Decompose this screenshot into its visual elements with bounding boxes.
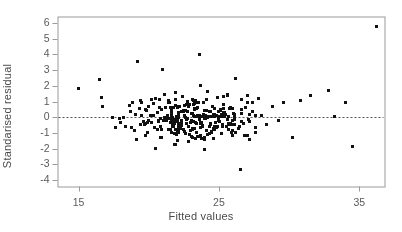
- y-tick-label: -2: [18, 142, 50, 154]
- y-axis-title: Standarised residual: [0, 0, 14, 232]
- y-tick-label: -3: [18, 157, 50, 169]
- y-tick-label: 2: [18, 79, 50, 91]
- y-tick-label: 6: [18, 16, 50, 28]
- y-tick-label: 0: [18, 110, 50, 122]
- y-tick-label: -4: [18, 173, 50, 185]
- y-tick-label: 3: [18, 63, 50, 75]
- x-axis-title: Fitted values: [0, 210, 402, 222]
- x-tick-label: 25: [199, 196, 239, 208]
- x-tick-label: 35: [339, 196, 379, 208]
- x-tick-label: 15: [59, 196, 99, 208]
- y-tick-label: 5: [18, 32, 50, 44]
- y-tick-label: 4: [18, 47, 50, 59]
- scatter-plot-figure: Fitted values Standarised residual -4-3-…: [0, 0, 402, 232]
- y-tick-label: 1: [18, 95, 50, 107]
- y-tick-label: -1: [18, 126, 50, 138]
